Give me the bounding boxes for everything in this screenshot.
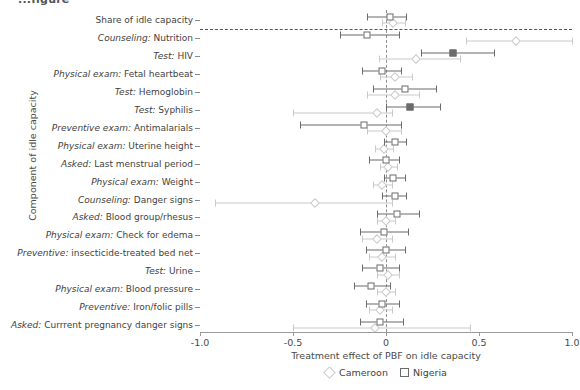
category-label-prefix: Test:: [134, 105, 155, 115]
data-point-marker-cameroon: [390, 90, 400, 100]
confidence-interval-cap: [379, 56, 380, 63]
confidence-interval-cap: [399, 271, 400, 278]
x-tick: [200, 332, 201, 336]
data-point-marker-nigeria: [368, 283, 375, 290]
confidence-interval-cap: [384, 139, 385, 146]
category-label-prefix: Test:: [145, 266, 166, 276]
confidence-interval-cap: [377, 211, 378, 218]
confidence-interval-cap: [412, 74, 413, 81]
category-label-text: Nutrition: [151, 33, 193, 43]
confidence-interval-cap: [384, 175, 385, 182]
category-label-text: Currrent pregnancy danger signs: [41, 320, 193, 330]
confidence-interval-cap: [367, 92, 368, 99]
confidence-interval-cap: [460, 56, 461, 63]
category-label: Share of idle capacity: [0, 15, 193, 25]
x-tick: [386, 332, 387, 336]
category-label-text: Blood group/rhesus: [103, 212, 193, 222]
confidence-interval-cap: [367, 13, 368, 20]
data-point-marker-nigeria: [381, 229, 388, 236]
confidence-interval-cap: [399, 265, 400, 272]
category-label-prefix: Asked:: [72, 212, 102, 222]
confidence-interval-cap: [377, 289, 378, 296]
confidence-interval-cap: [360, 229, 361, 236]
confidence-interval-cap: [399, 301, 400, 308]
category-label: Preventive: Iron/folic pills: [0, 302, 193, 312]
confidence-interval-cap: [362, 67, 363, 74]
category-label: Physical exam: Weight: [0, 177, 193, 187]
confidence-interval-cap: [408, 229, 409, 236]
confidence-interval-cap: [401, 121, 402, 128]
confidence-interval-cap: [406, 139, 407, 146]
confidence-interval-cap: [401, 127, 402, 134]
x-tick: [293, 332, 294, 336]
confidence-interval-cap: [405, 20, 406, 27]
confidence-interval-cap: [380, 74, 381, 81]
confidence-interval-cap: [366, 301, 367, 308]
x-tick: [572, 332, 573, 336]
category-label: Preventive: insecticide-treated bed net: [0, 248, 193, 258]
confidence-interval-cap: [293, 109, 294, 116]
confidence-interval-cap: [377, 217, 378, 224]
confidence-interval-cap: [377, 271, 378, 278]
confidence-interval-cap: [369, 157, 370, 164]
data-point-marker-nigeria: [407, 103, 414, 110]
category-label-prefix: Asked:: [11, 320, 41, 330]
category-label-text: Antimalarials: [131, 123, 193, 133]
category-label-text: Danger signs: [131, 195, 193, 205]
category-label: Test: Hemoglobin: [0, 87, 193, 97]
x-tick-label: 0.5: [471, 337, 486, 348]
data-point-marker-cameroon: [390, 72, 400, 82]
confidence-interval-cap: [366, 247, 367, 254]
confidence-interval-cap: [340, 31, 341, 38]
category-label-prefix: Preventive:: [79, 302, 130, 312]
confidence-interval-line: [293, 328, 470, 329]
confidence-interval-cap: [367, 127, 368, 134]
data-point-marker-nigeria: [386, 13, 393, 20]
confidence-interval-cap: [399, 31, 400, 38]
category-label-text: insecticide-treated bed net: [68, 248, 193, 258]
category-label-text: Iron/folic pills: [130, 302, 193, 312]
data-point-marker-nigeria: [364, 31, 371, 38]
category-label: Physical exam: Uterine height: [0, 141, 193, 151]
category-label-text: Hemoglobin: [136, 87, 193, 97]
confidence-interval-cap: [392, 235, 393, 242]
data-point-marker-nigeria: [360, 121, 367, 128]
x-tick-label: 0: [383, 337, 389, 348]
category-label: Test: HIV: [0, 51, 193, 61]
confidence-interval-cap: [390, 283, 391, 290]
header-separator-line: [200, 29, 572, 30]
plot-area: [200, 10, 572, 332]
confidence-interval-line: [300, 124, 400, 125]
data-point-marker-cameroon: [310, 198, 320, 208]
category-label: Asked: Last menstrual period: [0, 159, 193, 169]
legend-label-nigeria: Nigeria: [413, 367, 447, 378]
confidence-interval-cap: [395, 217, 396, 224]
data-point-marker-cameroon: [511, 36, 521, 46]
confidence-interval-cap: [397, 163, 398, 170]
data-point-marker-nigeria: [392, 139, 399, 146]
category-label-prefix: Physical exam:: [46, 230, 114, 240]
category-label-prefix: Asked:: [61, 159, 91, 169]
category-label: Physical exam: Blood pressure: [0, 284, 193, 294]
confidence-interval-cap: [421, 49, 422, 56]
confidence-interval-line: [421, 52, 494, 53]
confidence-interval-cap: [382, 193, 383, 200]
category-label-prefix: Physical exam:: [54, 69, 122, 79]
confidence-interval-cap: [405, 175, 406, 182]
confidence-interval-cap: [373, 181, 374, 188]
confidence-interval-cap: [215, 199, 216, 206]
data-point-marker-nigeria: [449, 49, 456, 56]
data-point-marker-cameroon: [411, 54, 421, 64]
confidence-interval-cap: [392, 199, 393, 206]
data-point-marker-cameroon: [372, 108, 382, 118]
x-tick-label: -1.0: [191, 337, 210, 348]
category-label: Asked: Blood group/rhesus: [0, 212, 193, 222]
x-tick-label: -0.5: [284, 337, 303, 348]
confidence-interval-cap: [419, 92, 420, 99]
confidence-interval-cap: [382, 20, 383, 27]
confidence-interval-cap: [392, 109, 393, 116]
data-point-marker-nigeria: [377, 318, 384, 325]
category-label-text: Weight: [159, 177, 193, 187]
category-label-text: Blood pressure: [123, 284, 193, 294]
